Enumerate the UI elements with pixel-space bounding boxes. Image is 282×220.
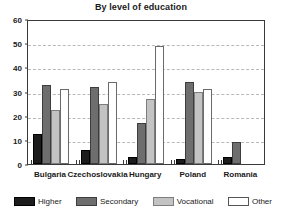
x-tick-bulgaria — [31, 160, 32, 164]
bar-bulgaria-vocational — [51, 110, 60, 164]
bar-poland-higher — [176, 159, 185, 164]
bars-layer — [28, 21, 264, 164]
y-tick-label-10: 10 — [13, 136, 22, 145]
bar-poland-secondary — [185, 82, 194, 164]
x-label-hungary: Hungary — [129, 170, 161, 179]
chart-container: By level of education 0102030405060 Bulg… — [0, 0, 282, 220]
chart-title: By level of education — [0, 2, 282, 12]
legend-label-other: Other — [252, 197, 272, 206]
y-tick-label-0: 0 — [18, 161, 22, 170]
legend-swatch-vocational-icon — [153, 197, 174, 206]
x-tick-romania — [221, 160, 222, 164]
x-label-poland: Poland — [179, 170, 206, 179]
bar-bulgaria-other — [60, 89, 69, 164]
legend-label-higher: Higher — [38, 197, 62, 206]
legend-item-vocational[interactable]: Vocational — [153, 197, 214, 206]
group-separator-poland — [171, 160, 172, 164]
bar-hungary-secondary — [137, 123, 146, 164]
legend-item-higher[interactable]: Higher — [14, 197, 62, 206]
y-axis: 0102030405060 — [0, 20, 25, 165]
bar-poland-other — [203, 89, 212, 164]
y-tick-label-60: 60 — [13, 16, 22, 25]
y-tick-label-50: 50 — [13, 40, 22, 49]
group-separator-romania — [218, 160, 219, 164]
bar-czechoslovakia-other — [108, 82, 117, 164]
x-axis-category-labels: BulgariaCzechoslovakiaHungaryPolandRoman… — [27, 170, 265, 184]
y-tick-label-20: 20 — [13, 112, 22, 121]
x-tick-hungary — [126, 160, 127, 164]
x-tick-czechoslovakia — [79, 160, 80, 164]
legend-label-vocational: Vocational — [177, 197, 214, 206]
x-label-czechoslovakia: Czechoslovakia — [68, 170, 128, 179]
y-tick-label-30: 30 — [13, 88, 22, 97]
bar-poland-vocational — [194, 92, 203, 165]
legend-label-secondary: Secondary — [100, 197, 138, 206]
legend-swatch-other-icon — [228, 197, 249, 206]
group-separator-hungary — [123, 160, 124, 164]
bar-czechoslovakia-vocational — [99, 104, 108, 164]
bar-bulgaria-secondary — [42, 85, 51, 164]
legend-item-secondary[interactable]: Secondary — [76, 197, 138, 206]
plot-area — [27, 20, 265, 165]
bar-romania-secondary — [232, 142, 241, 164]
group-separator-czechoslovakia — [76, 160, 77, 164]
bar-hungary-other — [155, 46, 164, 164]
bar-romania-higher — [223, 157, 232, 164]
legend-item-other[interactable]: Other — [228, 197, 272, 206]
x-tick-poland — [174, 160, 175, 164]
bar-hungary-vocational — [146, 99, 155, 164]
bar-bulgaria-higher — [33, 134, 42, 164]
chart-legend: HigherSecondaryVocationalOther — [14, 194, 272, 208]
legend-swatch-higher-icon — [14, 197, 35, 206]
bar-czechoslovakia-higher — [81, 150, 90, 165]
x-label-bulgaria: Bulgaria — [34, 170, 66, 179]
legend-swatch-secondary-icon — [76, 197, 97, 206]
bar-hungary-higher — [128, 157, 137, 164]
bar-czechoslovakia-secondary — [90, 87, 99, 164]
x-label-romania: Romania — [223, 170, 257, 179]
y-tick-label-40: 40 — [13, 64, 22, 73]
